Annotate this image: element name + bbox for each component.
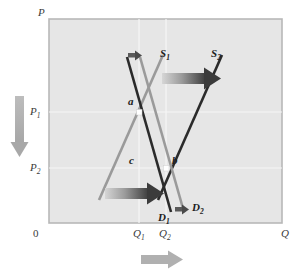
- x-tick-q2-text: Q: [159, 227, 167, 239]
- curve-label-s1: S1: [160, 48, 170, 62]
- y-tick-p1-text: P: [30, 105, 37, 117]
- point-label-c: c: [129, 155, 134, 166]
- y-tick-p2: P2: [30, 162, 40, 176]
- curve-label-d1-text: D: [158, 211, 166, 223]
- x-tick-q1-text: Q: [133, 227, 141, 239]
- point-label-a: a: [128, 96, 134, 107]
- point-marker-b: [164, 166, 170, 172]
- y-tick-p1: P1: [30, 106, 40, 120]
- x-axis-title: Q: [281, 228, 289, 239]
- y-tick-p2-text: P: [30, 161, 37, 173]
- curve-label-s2-sub: 2: [217, 53, 221, 62]
- curve-label-s1-sub: 1: [166, 53, 170, 62]
- curve-label-d2-text: D: [192, 201, 200, 213]
- origin-label: 0: [33, 228, 39, 239]
- x-tick-q2-sub: 2: [167, 233, 171, 242]
- supply-demand-chart: [0, 0, 301, 275]
- point-label-b: b: [172, 155, 178, 166]
- figure-canvas: P Q 0 P1 P2 Q1 Q2 S1 S2 D1 D2 a b c: [0, 0, 301, 275]
- curve-label-d1-sub: 1: [166, 217, 170, 226]
- y-tick-p1-sub: 1: [37, 111, 41, 120]
- x-tick-q1-sub: 1: [141, 233, 145, 242]
- curve-label-d2: D2: [192, 202, 204, 216]
- point-marker-a: [137, 110, 143, 116]
- x-tick-q2: Q2: [159, 228, 171, 242]
- price-down-arrow: [11, 96, 29, 157]
- y-axis-title: P: [38, 7, 45, 18]
- curve-label-d2-sub: 2: [200, 207, 204, 216]
- curve-label-d1: D1: [158, 212, 170, 226]
- y-tick-p2-sub: 2: [37, 167, 41, 176]
- curve-label-s2: S2: [211, 48, 221, 62]
- x-tick-q1: Q1: [133, 228, 145, 242]
- quantity-up-arrow: [141, 251, 183, 269]
